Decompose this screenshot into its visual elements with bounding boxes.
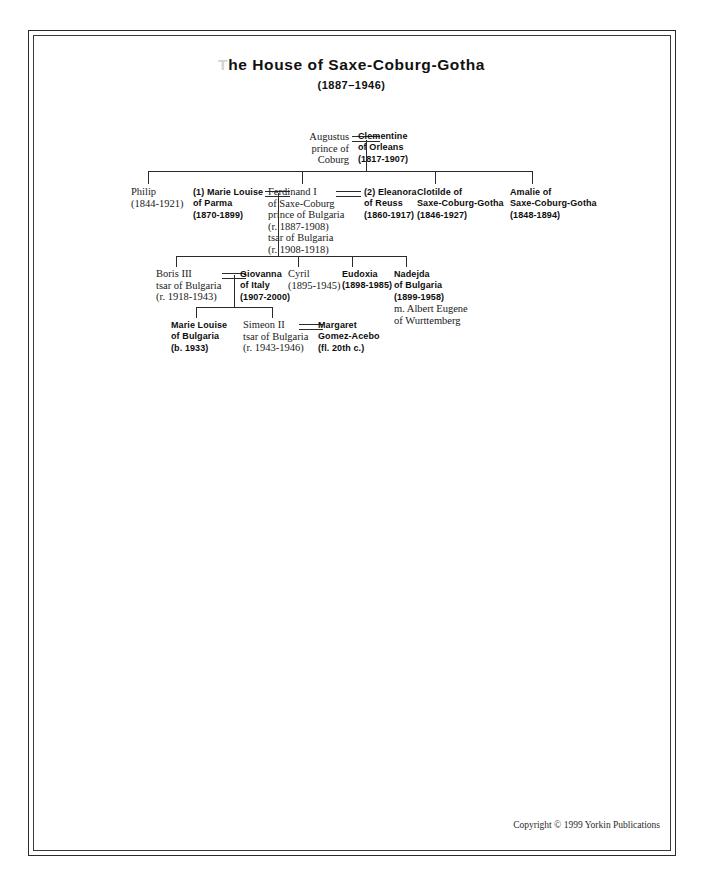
person-clotilde-line1: Clotilde of	[417, 187, 504, 198]
person-cyril-line1: Cyril	[288, 268, 341, 280]
connector-gen3-boris-descent	[234, 275, 235, 307]
connector-gen3-stub-nadejda	[406, 256, 407, 267]
person-philip-line1: Philip	[131, 186, 184, 198]
person-marie-louise-of-bulgaria-line1: Marie Louise	[171, 320, 227, 331]
person-ferdinand-i-line5: tsar of Bulgaria	[268, 232, 344, 244]
connector-gen3-stub-boris	[176, 256, 177, 267]
person-simeon-ii-line3: (r. 1943-1946)	[243, 342, 308, 354]
page-title-initial: T	[218, 56, 228, 73]
person-marie-louise-of-parma-line2: of Parma	[193, 198, 263, 209]
person-ferdinand-i-line2: of Saxe-Coburg	[268, 198, 344, 210]
person-amalie-line2: Saxe-Coburg-Gotha	[510, 198, 597, 209]
person-margaret-gomez-acebo-line1: Margaret	[318, 320, 380, 331]
person-margaret-gomez-acebo-line3: (fl. 20th c.)	[318, 343, 380, 354]
connector-gen2-sibling-bar	[148, 171, 532, 172]
person-amalie-line1: Amalie of	[510, 187, 597, 198]
person-eleanora-of-reuss-line3: (1860-1917)	[364, 210, 417, 221]
connector-gen4-stub-simeon	[272, 307, 273, 318]
person-nadejda: Nadejda of Bulgaria (1899-1958) m. Alber…	[394, 269, 468, 326]
person-augustus-line2: prince of	[297, 143, 349, 155]
person-nadejda-line4: m. Albert Eugene	[394, 303, 468, 315]
person-nadejda-line1: Nadejda	[394, 269, 468, 280]
person-cyril-line2: (1895-1945)	[288, 280, 341, 292]
person-eleanora-of-reuss: (2) Eleanora of Reuss (1860-1917)	[364, 187, 417, 221]
connector-gen1-descent	[366, 140, 367, 171]
person-clotilde-line3: (1846-1927)	[417, 210, 504, 221]
person-boris-iii-line1: Boris III	[156, 268, 221, 280]
person-cyril: Cyril (1895-1945)	[288, 268, 341, 291]
person-giovanna-of-italy: Giovanna of Italy (1907-2000)	[240, 269, 290, 303]
page-title-text: he House of Saxe-Coburg-Gotha	[228, 56, 485, 73]
person-eleanora-of-reuss-line1: (2) Eleanora	[364, 187, 417, 198]
person-nadejda-line3: (1899-1958)	[394, 292, 468, 303]
connector-gen3-stub-eudoxia	[352, 256, 353, 267]
person-nadejda-line2: of Bulgaria	[394, 280, 468, 291]
person-philip-line2: (1844-1921)	[131, 198, 184, 210]
page-border-inner	[33, 35, 671, 851]
person-ferdinand-i-line1: Ferdinand I	[268, 186, 344, 198]
person-augustus-line3: Coburg	[297, 154, 349, 166]
person-marie-louise-of-parma-line3: (1870-1899)	[193, 210, 263, 221]
copyright-notice: Copyright © 1999 Yorkin Publications	[0, 820, 660, 830]
person-giovanna-of-italy-line1: Giovanna	[240, 269, 290, 280]
person-clotilde: Clotilde of Saxe-Coburg-Gotha (1846-1927…	[417, 187, 504, 221]
person-boris-iii: Boris III tsar of Bulgaria (r. 1918-1943…	[156, 268, 221, 303]
connector-gen4-sibling-bar	[196, 307, 272, 308]
person-margaret-gomez-acebo-line2: Gomez-Acebo	[318, 331, 380, 342]
person-giovanna-of-italy-line2: of Italy	[240, 280, 290, 291]
person-marie-louise-of-bulgaria-line3: (b. 1933)	[171, 343, 227, 354]
person-augustus-line1: Augustus	[297, 131, 349, 143]
person-eudoxia: Eudoxia (1898-1985)	[342, 269, 392, 292]
connector-gen2-stub-amalie	[532, 171, 533, 184]
person-eleanora-of-reuss-line2: of Reuss	[364, 198, 417, 209]
connector-gen3-stub-cyril	[298, 256, 299, 267]
person-ferdinand-i-line3: prince of Bulgaria	[268, 209, 344, 221]
person-simeon-ii-line2: tsar of Bulgaria	[243, 331, 308, 343]
person-giovanna-of-italy-line3: (1907-2000)	[240, 292, 290, 303]
person-marie-louise-of-parma: (1) Marie Louise of Parma (1870-1899)	[193, 187, 263, 221]
marriage-link-ferdinand-eleanora	[336, 191, 361, 197]
person-augustus: Augustus prince of Coburg	[297, 131, 349, 166]
connector-gen2-ferdinand-descent	[278, 193, 279, 256]
connector-gen2-stub-philip	[148, 171, 149, 184]
person-amalie-line3: (1848-1894)	[510, 210, 597, 221]
page-subtitle: (1887–1946)	[0, 79, 703, 91]
person-clotilde-line2: Saxe-Coburg-Gotha	[417, 198, 504, 209]
person-marie-louise-of-bulgaria-line2: of Bulgaria	[171, 331, 227, 342]
connector-gen4-stub-marie-louise	[196, 307, 197, 318]
person-boris-iii-line2: tsar of Bulgaria	[156, 280, 221, 292]
person-ferdinand-i-line4: (r. 1887-1908)	[268, 221, 344, 233]
person-ferdinand-i-line6: (r. 1908-1918)	[268, 244, 344, 256]
person-marie-louise-of-bulgaria: Marie Louise of Bulgaria (b. 1933)	[171, 320, 227, 354]
person-eudoxia-line1: Eudoxia	[342, 269, 392, 280]
person-eudoxia-line2: (1898-1985)	[342, 280, 392, 291]
person-philip: Philip (1844-1921)	[131, 186, 184, 209]
connector-gen2-stub-ferdinand	[302, 171, 303, 184]
page-title: The House of Saxe-Coburg-Gotha	[0, 56, 703, 74]
person-ferdinand-i: Ferdinand I of Saxe-Coburg prince of Bul…	[268, 186, 344, 256]
person-marie-louise-of-parma-line1: (1) Marie Louise	[193, 187, 263, 198]
person-nadejda-line5: of Wurttemberg	[394, 315, 468, 327]
person-boris-iii-line3: (r. 1918-1943)	[156, 291, 221, 303]
page-border	[28, 30, 676, 856]
connector-gen3-sibling-bar	[176, 256, 406, 257]
person-amalie: Amalie of Saxe-Coburg-Gotha (1848-1894)	[510, 187, 597, 221]
person-margaret-gomez-acebo: Margaret Gomez-Acebo (fl. 20th c.)	[318, 320, 380, 354]
connector-gen2-stub-clotilde	[435, 171, 436, 184]
